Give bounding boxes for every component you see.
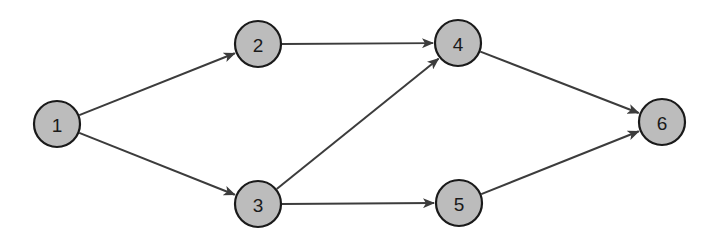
edge-3-to-5 [282,203,434,204]
node-label: 1 [52,115,63,136]
node-1: 1 [34,101,80,147]
node-label: 6 [657,113,668,134]
node-6: 6 [639,99,685,145]
edge-4-to-6 [480,52,638,113]
edge-2-to-4 [282,43,433,44]
edge-1-to-2 [79,53,234,115]
node-label: 4 [453,34,464,55]
node-3: 3 [235,181,281,227]
edges [79,43,638,204]
edge-3-to-4 [277,59,439,189]
node-5: 5 [436,180,482,226]
edge-1-to-3 [79,133,234,195]
node-label: 3 [253,195,264,216]
node-label: 2 [253,35,264,56]
node-4: 4 [435,20,481,66]
network-diagram: 123456 [0,0,717,249]
edge-5-to-6 [481,131,638,194]
node-label: 5 [454,194,465,215]
node-2: 2 [235,21,281,67]
